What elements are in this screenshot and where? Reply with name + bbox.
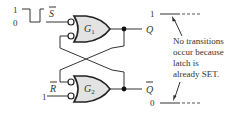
g2-input-bubble-bottom	[68, 93, 74, 99]
q-junction-dot	[122, 27, 127, 32]
gate-g1: G1	[68, 16, 142, 42]
g2-input-bubble-top	[68, 79, 74, 85]
q-bar-label: Q	[146, 84, 154, 95]
g1-input-bubble-bottom	[68, 33, 74, 39]
arrowhead-up-icon	[172, 16, 176, 22]
g1-input-bubble-top	[68, 19, 74, 25]
arrowhead-down-icon	[173, 95, 177, 101]
s-pulse-waveform	[22, 9, 44, 22]
q-bar-junction-dot	[122, 87, 127, 92]
q-bar-level-label: 0	[150, 98, 155, 108]
r-bar-label: R	[49, 83, 56, 94]
s-waveform-low-label: 0	[13, 18, 18, 28]
q-level-label: 1	[150, 9, 155, 19]
latch-diagram: 1 0 S G1 G2 1 R Q Q 1	[0, 0, 249, 114]
q-label: Q	[146, 24, 154, 35]
s-bar-label: S	[49, 8, 54, 19]
s-waveform-high-label: 1	[13, 5, 18, 15]
r-bar-input: 1 R	[42, 82, 68, 102]
r-bar-level-label: 1	[42, 92, 47, 102]
gate-g2: G2	[68, 76, 142, 102]
annotation-line-4: already SET.	[173, 69, 219, 79]
annotation: No transitions occur because latch is al…	[172, 16, 224, 101]
annotation-line-1: No transitions	[173, 36, 224, 46]
arrow-to-q-bar-line	[175, 82, 180, 97]
arrow-to-q-line	[174, 19, 182, 36]
annotation-line-2: occur because	[173, 47, 224, 57]
s-bar-waveform: 1 0 S	[13, 5, 70, 28]
annotation-line-3: latch is	[173, 58, 199, 68]
